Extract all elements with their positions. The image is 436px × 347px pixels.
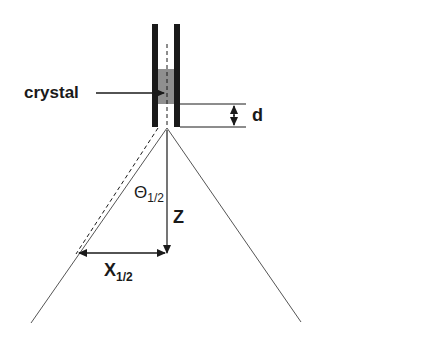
x-half-label: X1/2	[104, 260, 133, 284]
theta-subscript: 1/2	[147, 191, 164, 205]
tube-right-wall	[174, 24, 180, 127]
tube-left-wall	[152, 24, 158, 127]
crystal-label: crystal	[24, 83, 79, 102]
thickness-label-d: d	[252, 105, 263, 125]
beam-divergence-diagram: crystal d Θ1/2 Z X1/2	[0, 0, 436, 347]
theta-half-label: Θ1/2	[134, 183, 164, 205]
cone-left-edge	[31, 128, 167, 323]
crystal-block	[158, 69, 174, 104]
cone-right-edge	[167, 128, 301, 322]
z-distance-label: Z	[173, 207, 184, 227]
x-subscript: 1/2	[116, 270, 133, 284]
